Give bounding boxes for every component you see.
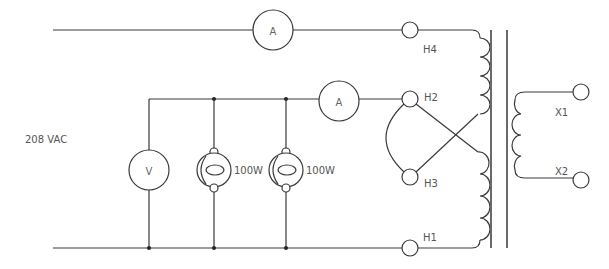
junction-dot: [284, 246, 288, 250]
lamp-2-rating: 100W: [306, 165, 335, 176]
source-voltage-label: 208 VAC: [25, 134, 67, 145]
jumper-arc: [386, 104, 404, 172]
circuit-diagram: A H4 A V 208 VAC 100W: [0, 0, 609, 269]
junction-dot: [212, 246, 216, 250]
primary-coil-lower: [478, 152, 490, 240]
terminal-x2: [573, 172, 589, 188]
terminal-h4: [402, 22, 418, 38]
label-x1: X1: [555, 107, 568, 118]
cross-wire-h2: [416, 104, 478, 152]
voltmeter: V: [129, 150, 169, 190]
lamp-2: [269, 99, 303, 248]
voltmeter-label: V: [146, 166, 153, 177]
label-h1: H1: [423, 232, 437, 243]
cross-wire-h3: [416, 114, 478, 172]
junction-dot: [147, 246, 151, 250]
terminal-h3: [402, 169, 418, 185]
terminal-h2: [402, 91, 418, 107]
label-h3: H3: [424, 178, 438, 189]
label-h4: H4: [423, 44, 437, 55]
lamp-1-rating: 100W: [234, 165, 263, 176]
terminal-x1: [573, 84, 589, 100]
label-x2: X2: [555, 166, 568, 177]
ammeter-top: A: [253, 10, 293, 50]
ammeter-top-label: A: [270, 26, 277, 37]
primary-coil-upper: [480, 38, 490, 114]
ammeter-mid: A: [319, 81, 359, 121]
label-h2: H2: [424, 92, 438, 103]
lamp-1: [197, 99, 231, 248]
ammeter-mid-label: A: [336, 97, 343, 108]
terminal-h1: [402, 240, 418, 256]
